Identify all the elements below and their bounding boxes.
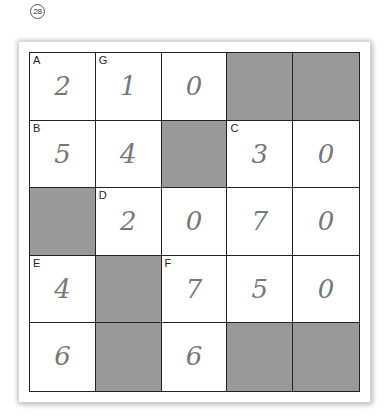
- crossnumber-grid: A2G10B54C30D2070E4F75066: [29, 52, 360, 392]
- grid-cell[interactable]: 0: [293, 256, 359, 324]
- grid-cell[interactable]: B5: [30, 121, 96, 189]
- handwritten-digit: 0: [293, 274, 359, 304]
- grid-cell[interactable]: 6: [162, 323, 228, 391]
- handwritten-digit: 4: [30, 274, 95, 304]
- handwritten-digit: 7: [227, 206, 292, 236]
- shaded-cell: [96, 323, 162, 391]
- handwritten-digit: 1: [96, 71, 161, 101]
- handwritten-digit: 2: [96, 206, 161, 236]
- grid-cell[interactable]: A2: [30, 53, 96, 121]
- shaded-cell: [227, 53, 293, 121]
- grid-cell[interactable]: 0: [162, 53, 228, 121]
- grid-cell[interactable]: 0: [293, 188, 359, 256]
- clue-label: D: [99, 189, 107, 201]
- shaded-cell: [96, 256, 162, 324]
- puzzle-number-badge: 28: [30, 4, 45, 19]
- grid-cell[interactable]: F7: [162, 256, 228, 324]
- clue-label: G: [99, 54, 108, 66]
- grid-cell[interactable]: 5: [227, 256, 293, 324]
- handwritten-digit: 6: [162, 341, 227, 371]
- handwritten-digit: 0: [162, 206, 227, 236]
- clue-label: B: [33, 122, 40, 134]
- clue-label: F: [165, 257, 172, 269]
- handwritten-digit: 0: [162, 71, 227, 101]
- grid-cell[interactable]: E4: [30, 256, 96, 324]
- shaded-cell: [293, 53, 359, 121]
- grid-cell[interactable]: 0: [162, 188, 228, 256]
- grid-cell[interactable]: 7: [227, 188, 293, 256]
- handwritten-digit: 5: [227, 274, 292, 304]
- grid-cell[interactable]: D2: [96, 188, 162, 256]
- handwritten-digit: 2: [30, 71, 95, 101]
- handwritten-digit: 7: [162, 274, 227, 304]
- shaded-cell: [162, 121, 228, 189]
- grid-cell[interactable]: 4: [96, 121, 162, 189]
- grid-cell[interactable]: 0: [293, 121, 359, 189]
- handwritten-digit: 3: [227, 139, 292, 169]
- handwritten-digit: 6: [30, 341, 95, 371]
- handwritten-digit: 4: [96, 139, 161, 169]
- handwritten-digit: 5: [30, 139, 95, 169]
- clue-label: A: [33, 54, 40, 66]
- grid-cell[interactable]: C3: [227, 121, 293, 189]
- shaded-cell: [227, 323, 293, 391]
- handwritten-digit: 0: [293, 206, 359, 236]
- clue-label: E: [33, 257, 40, 269]
- shaded-cell: [30, 188, 96, 256]
- grid-cell[interactable]: G1: [96, 53, 162, 121]
- clue-label: C: [230, 122, 238, 134]
- handwritten-digit: 0: [293, 139, 359, 169]
- grid-cell[interactable]: 6: [30, 323, 96, 391]
- shaded-cell: [293, 323, 359, 391]
